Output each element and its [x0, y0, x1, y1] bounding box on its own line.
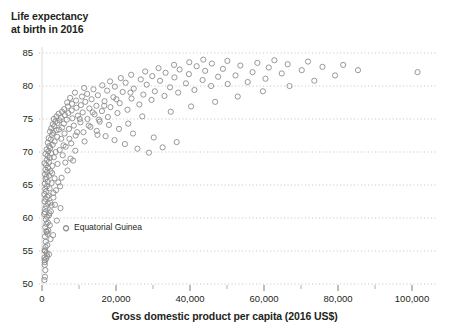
grid-lines	[39, 47, 437, 284]
svg-text:55: 55	[22, 245, 33, 256]
svg-text:0: 0	[39, 293, 44, 304]
svg-text:60: 60	[22, 212, 33, 223]
plot-canvas: 5055606570758085020,00040,00060,00080,00…	[0, 0, 449, 336]
svg-text:75: 75	[22, 113, 33, 124]
data-points	[42, 57, 421, 283]
svg-text:85: 85	[22, 47, 33, 58]
svg-text:80,000: 80,000	[323, 293, 352, 304]
axis-ticks	[42, 285, 412, 291]
svg-text:100,000: 100,000	[395, 293, 429, 304]
x-axis-title: Gross domestic product per capita (2016 …	[0, 310, 449, 322]
svg-text:20,000: 20,000	[101, 293, 130, 304]
svg-text:80: 80	[22, 80, 33, 91]
svg-text:70: 70	[22, 146, 33, 157]
scatter-chart: Life expectancy at birth in 2016 5055606…	[0, 0, 449, 336]
svg-text:60,000: 60,000	[249, 293, 278, 304]
svg-text:40,000: 40,000	[175, 293, 204, 304]
svg-text:65: 65	[22, 179, 33, 190]
svg-text:50: 50	[22, 278, 33, 289]
annotation-label-equatorial-guinea: Equatorial Guinea	[74, 222, 142, 232]
